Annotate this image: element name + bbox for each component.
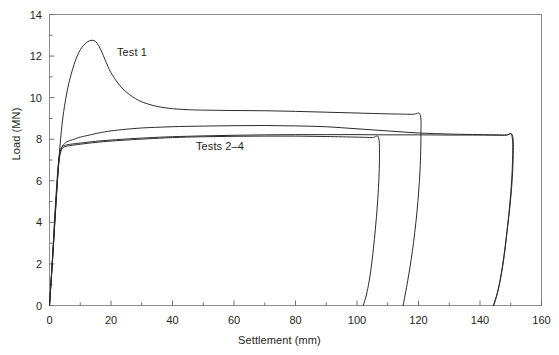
- y-tick-label: 14: [18, 9, 42, 20]
- annotation-test-1: Test 1: [117, 46, 147, 58]
- x-tick-label: 0: [46, 315, 52, 326]
- x-tick-label: 80: [289, 315, 301, 326]
- y-tick-label: 6: [18, 175, 42, 186]
- x-axis-title: Settlement (mm): [0, 334, 559, 346]
- axes-frame: [50, 15, 542, 306]
- x-tick-label: 100: [348, 315, 366, 326]
- x-tick-label: 20: [105, 315, 117, 326]
- chart-figure: 020406080100120140160 02468101214 Settle…: [0, 0, 559, 355]
- data-series-group: [50, 40, 514, 305]
- y-tick-label: 4: [18, 217, 42, 228]
- x-tick-label: 120: [409, 315, 427, 326]
- series-line-test-1: [50, 40, 422, 305]
- x-tick-label: 160: [532, 315, 550, 326]
- series-line-test-2: [50, 125, 514, 305]
- x-tick-label: 60: [228, 315, 240, 326]
- y-tick-label: 0: [18, 300, 42, 311]
- y-tick-label: 2: [18, 258, 42, 269]
- x-tick-label: 140: [471, 315, 489, 326]
- series-line-test-4: [50, 136, 380, 306]
- annotation-tests-2-4: Tests 2–4: [196, 140, 244, 152]
- y-tick-label: 12: [18, 51, 42, 62]
- y-axis-title: Load (MN): [10, 94, 22, 174]
- series-line-test-3: [50, 134, 513, 306]
- axis-ticks: [50, 15, 542, 306]
- load-settlement-plot: [0, 0, 559, 355]
- x-tick-label: 40: [166, 315, 178, 326]
